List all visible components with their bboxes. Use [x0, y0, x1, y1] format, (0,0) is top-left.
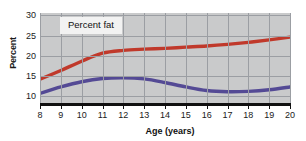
gridline-vertical — [144, 13, 145, 103]
x-tick-mark — [144, 106, 145, 109]
gridline-vertical — [228, 13, 229, 103]
gridline-vertical — [248, 13, 249, 103]
y-tick-label: 15 — [16, 72, 36, 81]
chart-figure: Percent 1015202530 891011121314151617181… — [0, 0, 306, 141]
y-tick-label: 25 — [16, 32, 36, 41]
gridline-vertical — [40, 13, 41, 103]
x-tick-mark — [82, 106, 83, 109]
y-tick-label: 20 — [16, 52, 36, 61]
x-tick-mark — [103, 106, 104, 109]
x-tick-label: 20 — [278, 110, 302, 120]
gridline-vertical — [207, 13, 208, 103]
x-axis-title: Age (years) — [0, 126, 306, 136]
gridline-vertical — [165, 13, 166, 103]
gridline-vertical — [186, 13, 187, 103]
x-tick-mark — [123, 106, 124, 109]
x-tick-mark — [290, 106, 291, 109]
y-tick-label: 30 — [16, 11, 36, 20]
x-tick-mark — [207, 106, 208, 109]
x-tick-mark — [40, 106, 41, 109]
x-tick-mark — [269, 106, 270, 109]
x-tick-mark — [165, 106, 166, 109]
x-tick-mark — [228, 106, 229, 109]
gridline-vertical — [269, 13, 270, 103]
annotation-percent-fat: Percent fat — [60, 17, 122, 34]
y-tick-label: 10 — [16, 92, 36, 101]
gridline-vertical — [290, 13, 291, 103]
x-tick-mark — [248, 106, 249, 109]
x-tick-mark — [61, 106, 62, 109]
x-tick-mark — [186, 106, 187, 109]
gridline-vertical — [123, 13, 124, 103]
